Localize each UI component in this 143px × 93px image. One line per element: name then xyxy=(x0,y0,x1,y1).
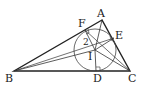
bisector-bi xyxy=(14,50,95,71)
radius-id xyxy=(95,50,96,71)
label-c: C xyxy=(128,72,136,85)
label-d: D xyxy=(93,72,102,85)
geometry-diagram: A B C D E F I 2 xyxy=(0,0,143,93)
angle-label-2: 2 xyxy=(83,37,89,47)
label-e: E xyxy=(115,29,123,42)
bisector-ai xyxy=(95,20,102,50)
label-f: F xyxy=(78,17,86,30)
label-b: B xyxy=(5,72,13,85)
label-i: I xyxy=(88,50,92,63)
triangle-abc xyxy=(14,20,130,71)
label-a: A xyxy=(96,7,106,20)
